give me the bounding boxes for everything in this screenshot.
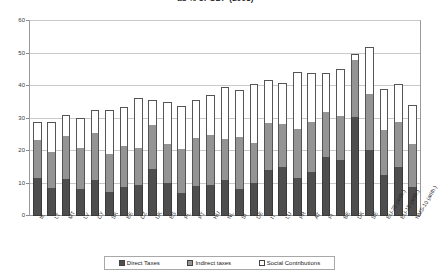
x-tick-label-LT: LT — [53, 212, 61, 220]
bar-FR[interactable] — [293, 72, 302, 216]
segment-social-contributions — [365, 47, 374, 94]
segment-indirect-taxes — [120, 146, 129, 187]
segment-indirect-taxes — [221, 139, 230, 180]
bar-UK[interactable] — [148, 100, 157, 216]
segment-indirect-taxes — [76, 148, 85, 189]
bar-DE[interactable] — [250, 84, 259, 216]
bar-CZ[interactable] — [134, 98, 143, 216]
legend-label-indirect-taxes: Indirect taxes — [195, 260, 231, 266]
y-tick-label-60: 60 — [18, 17, 25, 23]
segment-direct-taxes — [221, 180, 230, 216]
segment-social-contributions — [148, 100, 157, 125]
legend-label-direct-taxes: Direct Taxes — [127, 260, 160, 266]
y-tick-label-10: 10 — [18, 180, 25, 186]
segment-social-contributions — [163, 102, 172, 144]
segment-social-contributions — [134, 98, 143, 147]
bar-SK[interactable] — [105, 110, 114, 216]
bar-CY[interactable] — [91, 110, 100, 216]
bar-EU-25 (arith.)[interactable] — [380, 89, 389, 216]
legend-item-direct-taxes[interactable]: Direct Taxes — [119, 260, 160, 266]
segment-direct-taxes — [380, 175, 389, 216]
legend-item-indirect-taxes[interactable]: Indirect taxes — [187, 260, 231, 266]
bar-IT[interactable] — [264, 80, 273, 216]
segment-social-contributions — [221, 87, 230, 139]
bar-AT[interactable] — [307, 73, 316, 216]
segment-indirect-taxes — [148, 125, 157, 169]
bar-EE[interactable] — [120, 107, 129, 216]
segment-social-contributions — [62, 115, 71, 137]
segment-social-contributions — [250, 84, 259, 142]
x-tick-label-NL: NL — [226, 211, 235, 220]
segment-social-contributions — [278, 83, 287, 124]
segment-direct-taxes — [322, 157, 331, 216]
y-tick-label-50: 50 — [18, 50, 25, 56]
y-tick-label-30: 30 — [18, 115, 25, 121]
bar-HU[interactable] — [206, 95, 215, 216]
segment-direct-taxes — [307, 172, 316, 216]
bar-SE[interactable] — [365, 47, 374, 216]
segment-social-contributions — [380, 89, 389, 130]
segment-indirect-taxes — [163, 144, 172, 183]
segment-direct-taxes — [278, 167, 287, 216]
bar-ES[interactable] — [163, 102, 172, 216]
segment-social-contributions — [394, 84, 403, 121]
bar-SI[interactable] — [235, 90, 244, 216]
segment-indirect-taxes — [351, 60, 360, 117]
indirect-swatch-icon — [187, 260, 193, 266]
segment-direct-taxes — [206, 185, 215, 216]
segment-indirect-taxes — [322, 112, 331, 157]
segment-indirect-taxes — [47, 152, 56, 188]
x-tick-label-PT: PT — [197, 211, 206, 220]
x-axis-labels: IELTMTLVCYSKEECZUKESPLPTHUNLSIDEITLUFRAT… — [30, 217, 420, 257]
x-tick-label-ES: ES — [168, 211, 177, 220]
segment-social-contributions — [336, 69, 345, 116]
segment-indirect-taxes — [307, 122, 316, 171]
segment-direct-taxes — [33, 178, 42, 216]
segment-social-contributions — [307, 73, 316, 122]
segment-direct-taxes — [336, 160, 345, 216]
segment-social-contributions — [76, 118, 85, 149]
legend-item-social-contributions[interactable]: Social Contributions — [259, 260, 320, 266]
segment-indirect-taxes — [278, 124, 287, 167]
segment-indirect-taxes — [91, 133, 100, 180]
bar-IE[interactable] — [33, 122, 42, 216]
y-axis: 0102030405060 — [0, 20, 29, 216]
segment-indirect-taxes — [336, 116, 345, 160]
x-tick-label-FR: FR — [298, 211, 307, 220]
legend-label-social-contributions: Social Contributions — [267, 260, 320, 266]
bar-PL[interactable] — [177, 106, 186, 216]
segment-indirect-taxes — [62, 136, 71, 179]
y-tick-label-20: 20 — [18, 147, 25, 153]
segment-social-contributions — [264, 80, 273, 122]
segment-indirect-taxes — [105, 154, 114, 192]
bar-MT[interactable] — [62, 115, 71, 216]
segment-indirect-taxes — [33, 140, 42, 179]
segment-direct-taxes — [351, 117, 360, 216]
segment-social-contributions — [47, 122, 56, 152]
bar-FI[interactable] — [322, 73, 331, 216]
segment-indirect-taxes — [250, 143, 259, 183]
bar-BE[interactable] — [336, 69, 345, 216]
segment-indirect-taxes — [380, 130, 389, 175]
segment-indirect-taxes — [177, 149, 186, 193]
bar-LU[interactable] — [278, 83, 287, 216]
segment-social-contributions — [91, 110, 100, 133]
segment-social-contributions — [322, 73, 331, 112]
segment-direct-taxes — [264, 170, 273, 216]
segment-indirect-taxes — [293, 129, 302, 178]
bar-LT[interactable] — [47, 122, 56, 216]
segment-direct-taxes — [91, 180, 100, 216]
bar-NL[interactable] — [221, 87, 230, 216]
bar-DK[interactable] — [351, 54, 360, 216]
y-tick-label-0: 0 — [22, 212, 25, 218]
social-swatch-icon — [259, 260, 265, 266]
segment-social-contributions — [33, 122, 42, 140]
segment-indirect-taxes — [235, 137, 244, 190]
segment-social-contributions — [177, 106, 186, 149]
segment-social-contributions — [235, 90, 244, 137]
bar-series-container — [30, 21, 420, 216]
y-tick-label-40: 40 — [18, 82, 25, 88]
bar-LV[interactable] — [76, 118, 85, 216]
bar-PT[interactable] — [192, 100, 201, 216]
